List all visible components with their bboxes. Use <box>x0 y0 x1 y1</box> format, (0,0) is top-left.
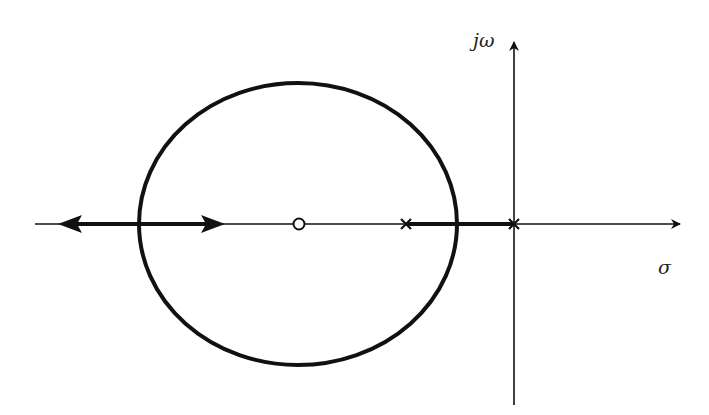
real-axis-label: σ <box>658 256 672 278</box>
imaginary-axis-label: jω <box>469 29 494 51</box>
root-locus-diagram: jω σ <box>0 0 709 415</box>
zero-marker-icon <box>294 219 305 230</box>
